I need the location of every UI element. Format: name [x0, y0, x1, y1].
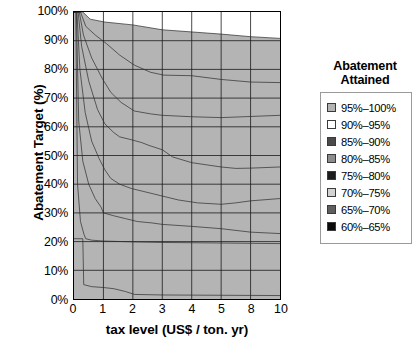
y-tick-label: 50%	[28, 149, 68, 163]
legend-item-label: 60%–65%	[341, 221, 390, 233]
legend-item[interactable]: 75%–80%	[327, 167, 411, 184]
y-tick-label: 60%	[28, 120, 68, 134]
y-tick-label: 90%	[28, 33, 68, 47]
legend-item[interactable]: 90%–95%	[327, 116, 411, 133]
legend-item-label: 95%–100%	[341, 102, 396, 114]
x-axis-tick-labels: 012345810	[73, 302, 281, 322]
y-tick-label: 100%	[28, 4, 68, 18]
legend-item-label: 75%–80%	[341, 170, 390, 182]
legend-swatch-icon	[327, 222, 336, 231]
x-tick-label: 2	[120, 302, 144, 316]
contour-chart: Abatement Target (%) 0%10%20%30%40%50%60…	[0, 0, 415, 348]
legend-item[interactable]: 80%–85%	[327, 150, 411, 167]
y-axis-tick-labels: 0%10%20%30%40%50%60%70%80%90%100%	[22, 11, 68, 300]
legend-swatch-icon	[327, 137, 336, 146]
legend-item[interactable]: 65%–70%	[327, 201, 411, 218]
legend-item-label: 85%–90%	[341, 136, 390, 148]
legend-item-label: 80%–85%	[341, 153, 390, 165]
legend-title-line-1: Abatement	[316, 60, 414, 74]
y-tick-label: 70%	[28, 91, 68, 105]
legend-item-label: 70%–75%	[341, 187, 390, 199]
x-axis-title: tax level (US$ / ton. yr)	[73, 322, 281, 337]
x-tick-label: 10	[269, 302, 293, 316]
legend-item-label: 65%–70%	[341, 204, 390, 216]
legend: 95%–100%90%–95%85%–90%80%–85%75%–80%70%–…	[320, 92, 412, 244]
x-tick-label: 0	[61, 302, 85, 316]
legend-swatch-icon	[327, 205, 336, 214]
legend-title-line-2: Attained	[316, 74, 414, 88]
legend-swatch-icon	[327, 120, 336, 129]
x-tick-label: 1	[91, 302, 115, 316]
legend-swatch-icon	[327, 171, 336, 180]
legend-item[interactable]: 60%–65%	[327, 218, 411, 235]
y-tick-label: 20%	[28, 235, 68, 249]
contour-surface	[74, 12, 280, 299]
legend-swatch-icon	[327, 188, 336, 197]
legend-swatch-icon	[327, 103, 336, 112]
plot-area	[73, 11, 281, 300]
y-tick-label: 10%	[28, 264, 68, 278]
legend-item-label: 90%–95%	[341, 119, 390, 131]
y-tick-label: 40%	[28, 177, 68, 191]
legend-item[interactable]: 95%–100%	[327, 99, 411, 116]
x-tick-label: 8	[239, 302, 263, 316]
x-tick-label: 4	[180, 302, 204, 316]
y-tick-label: 30%	[28, 206, 68, 220]
legend-swatch-icon	[327, 154, 336, 163]
x-tick-label: 5	[210, 302, 234, 316]
x-tick-label: 3	[150, 302, 174, 316]
legend-title: Abatement Attained	[316, 60, 414, 87]
y-tick-label: 80%	[28, 62, 68, 76]
legend-item[interactable]: 70%–75%	[327, 184, 411, 201]
legend-item[interactable]: 85%–90%	[327, 133, 411, 150]
